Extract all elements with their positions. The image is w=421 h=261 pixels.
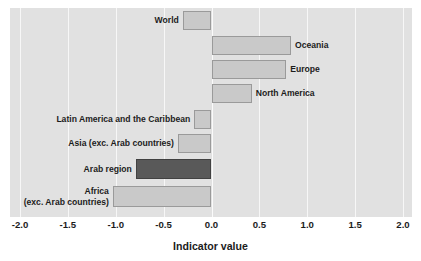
- bar[interactable]: [212, 84, 252, 103]
- x-tick-label: 2.0: [383, 219, 421, 230]
- bar[interactable]: [194, 110, 211, 129]
- bar[interactable]: [136, 159, 212, 179]
- x-tick-label: -1.5: [48, 219, 88, 230]
- x-tick-label: 0.5: [239, 219, 279, 230]
- x-tick-label: 0.0: [192, 219, 232, 230]
- bar[interactable]: [212, 60, 287, 79]
- x-axis-title: Indicator value: [0, 240, 421, 252]
- bar[interactable]: [212, 36, 291, 55]
- bar-rows: WorldOceaniaEuropeNorth AmericaLatin Ame…: [0, 0, 421, 217]
- bar-chart: WorldOceaniaEuropeNorth AmericaLatin Ame…: [0, 0, 421, 261]
- bar[interactable]: [113, 186, 212, 207]
- bar[interactable]: [178, 134, 212, 153]
- x-tick-label: -0.5: [144, 219, 184, 230]
- bar-label: Latin America and the Caribbean: [0, 114, 190, 124]
- bar-label: Asia (exc. Arab countries): [0, 138, 174, 148]
- x-tick-label: -1.0: [96, 219, 136, 230]
- bar-label: Europe: [290, 64, 421, 74]
- bar-label: Oceania: [295, 40, 421, 50]
- bar-label: World: [0, 15, 179, 25]
- x-tick-label: -2.0: [0, 219, 40, 230]
- x-axis-tick-labels: -2.0-1.5-1.0-0.50.00.51.01.52.0: [0, 219, 421, 235]
- bar-label: North America: [256, 88, 421, 98]
- x-tick-label: 1.0: [287, 219, 327, 230]
- x-tick-label: 1.5: [335, 219, 375, 230]
- bar-label: Africa (exc. Arab countries): [0, 186, 109, 206]
- bar[interactable]: [183, 11, 212, 30]
- bar-label: Arab region: [0, 164, 132, 174]
